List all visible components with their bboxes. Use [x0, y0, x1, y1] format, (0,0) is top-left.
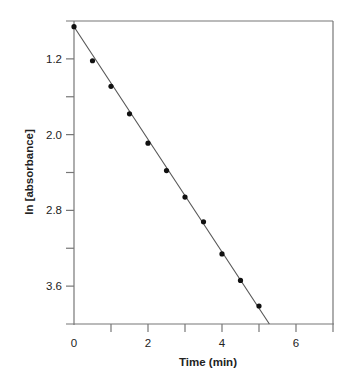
- x-tick-label: 2: [145, 337, 151, 349]
- y-axis-title: ln [absorbance]: [23, 129, 35, 215]
- data-point: [182, 195, 187, 200]
- data-point: [145, 141, 150, 146]
- x-tick-label: 0: [71, 337, 77, 349]
- axes: [66, 21, 334, 332]
- x-tick-label: 4: [219, 337, 226, 349]
- ticks: 02461.22.02.83.6: [46, 53, 299, 349]
- data-point: [238, 278, 243, 283]
- x-axis-title: Time (min): [179, 356, 237, 368]
- x-tick-label: 6: [293, 337, 299, 349]
- data-point: [164, 168, 169, 173]
- y-tick-label: 2.8: [46, 204, 62, 216]
- chart: 02461.22.02.83.6 Time (min) ln [absorban…: [0, 0, 352, 385]
- data-point: [71, 24, 76, 29]
- y-tick-label: 1.2: [46, 53, 62, 65]
- data-point: [127, 111, 132, 116]
- data-point: [90, 58, 95, 63]
- data-point: [201, 219, 206, 224]
- chart-canvas: 02461.22.02.83.6 Time (min) ln [absorban…: [0, 0, 352, 385]
- data-point: [219, 251, 224, 256]
- data-point: [108, 84, 113, 89]
- y-tick-label: 2.0: [46, 129, 62, 141]
- y-tick-label: 3.6: [46, 280, 62, 292]
- data-point: [256, 303, 261, 308]
